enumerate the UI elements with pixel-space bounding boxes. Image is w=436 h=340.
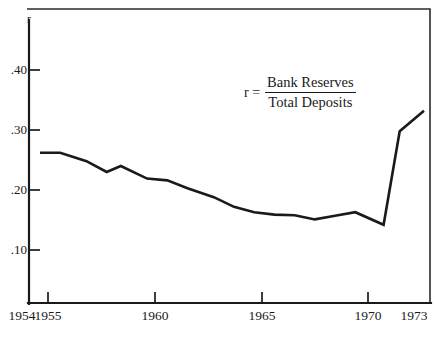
series-line-reserve-ratio [40,111,424,225]
x-tick-label-1955: 1955 [26,309,70,323]
formula-lhs: r = [244,85,260,101]
x-tick-label-1973: 1973 [392,309,436,323]
chart-canvas [0,0,436,340]
formula-denominator: Total Deposits [266,93,354,111]
plot-frame [27,9,430,303]
x-tick-label-1965: 1965 [240,309,284,323]
y-tick-label-040: .40 [0,63,27,76]
x-tick-label-1970: 1970 [346,309,390,323]
y-tick-label-020: .20 [0,183,27,196]
formula-annotation: r = Bank Reserves Total Deposits [244,74,356,111]
chart-figure: r .40 .30 .20 .10 1954 1955 1960 1965 19… [0,0,436,340]
y-tick-label-010: .10 [0,243,27,256]
formula-fraction: Bank Reserves Total Deposits [265,74,356,111]
y-axis-symbol: r [27,13,31,25]
x-tick-label-1960: 1960 [133,309,177,323]
y-tick-label-030: .30 [0,123,27,136]
formula-numerator: Bank Reserves [265,74,356,93]
